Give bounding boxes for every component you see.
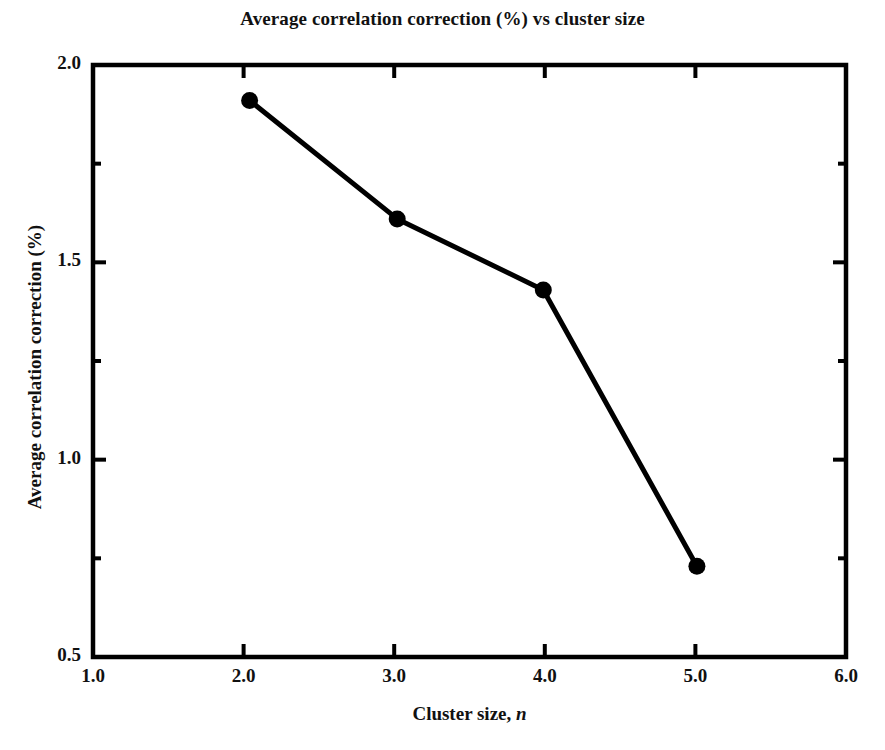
- y-tick-label: 1.0: [21, 447, 81, 469]
- x-tick-label: 2.0: [209, 665, 279, 687]
- y-tick-label: 0.5: [21, 644, 81, 666]
- data-point: [389, 210, 406, 227]
- x-tick-label: 5.0: [660, 665, 730, 687]
- chart-figure: Average correlation correction (%) vs cl…: [0, 0, 885, 750]
- plot-canvas: [0, 0, 885, 750]
- data-series: [241, 92, 705, 575]
- y-tick-label: 1.5: [21, 249, 81, 271]
- axes-frame: [93, 65, 846, 657]
- x-tick-label: 6.0: [811, 665, 881, 687]
- x-tick-label: 4.0: [510, 665, 580, 687]
- axis-ticks: [93, 65, 846, 657]
- x-tick-label: 3.0: [359, 665, 429, 687]
- x-tick-label: 1.0: [58, 665, 128, 687]
- data-point: [535, 281, 552, 298]
- y-tick-label: 2.0: [21, 52, 81, 74]
- data-point: [241, 92, 258, 109]
- data-point: [688, 558, 705, 575]
